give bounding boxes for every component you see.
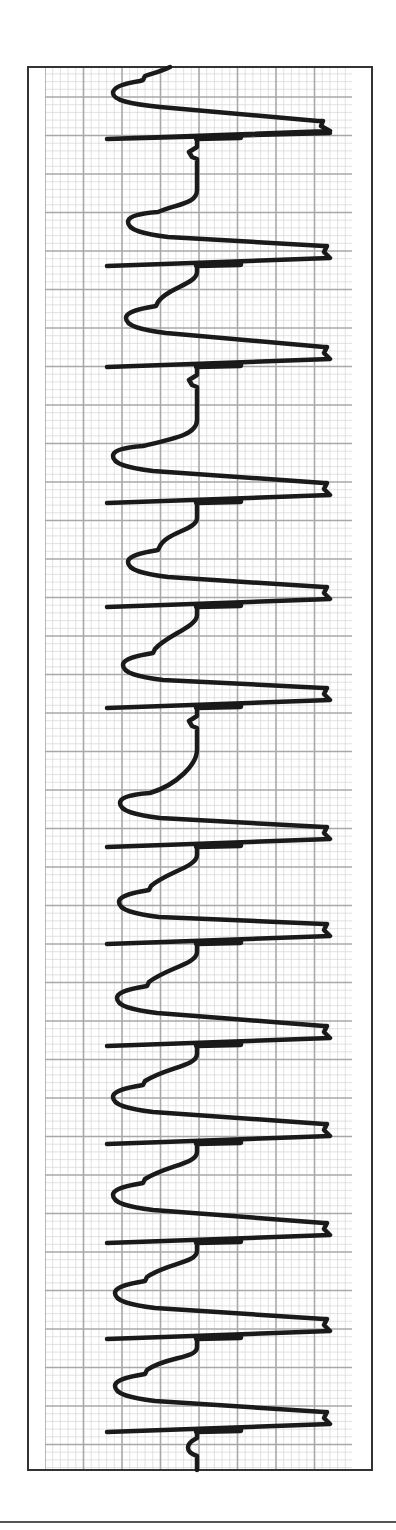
ecg-rhythm-strip [0, 0, 396, 1530]
bottom-divider [0, 1521, 396, 1523]
